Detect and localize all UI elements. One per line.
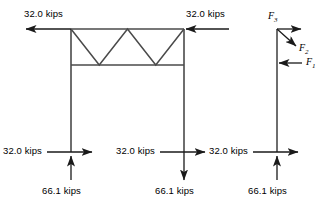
right-base-vertical-label: 66.1 kips: [248, 185, 287, 196]
left-base-vertical-label: 66.1 kips: [42, 185, 81, 196]
force-f3-label: F3: [268, 10, 278, 24]
force-f1-label: F1: [306, 56, 316, 70]
right-base-horizontal-label: 32.0 kips: [209, 145, 248, 156]
left-base-horizontal-label: 32.0 kips: [3, 145, 42, 156]
figure-canvas: 32.0 kips 32.0 kips 32.0 kips 66.1 kips …: [0, 0, 328, 210]
force-f2-label: F2: [299, 42, 309, 56]
force-f3-subscript: 3: [274, 16, 278, 24]
top-right-load-label: 32.0 kips: [186, 8, 225, 19]
top-left-load-label: 32.0 kips: [24, 8, 63, 19]
left-truss-structure: [71, 29, 184, 152]
middle-base-horizontal-label: 32.0 kips: [116, 145, 155, 156]
force-f1-subscript: 1: [312, 62, 316, 70]
force-f2-arrow: [277, 29, 296, 46]
diagram-svg: [0, 0, 328, 210]
force-f2-subscript: 2: [305, 48, 309, 56]
middle-base-vertical-label: 66.1 kips: [155, 185, 194, 196]
